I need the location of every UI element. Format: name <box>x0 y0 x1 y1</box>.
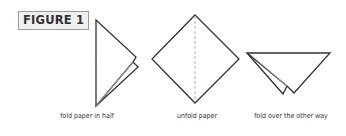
step-3-caption: fold over the other way <box>254 112 328 120</box>
step-1-caption: fold paper in half <box>60 112 114 120</box>
step-2-diamond-icon <box>152 15 239 103</box>
step-2-caption: unfold paper <box>177 112 217 120</box>
step-3-folded-inverted-triangle-icon <box>247 53 330 94</box>
step-1-folded-triangle-icon <box>96 20 138 106</box>
